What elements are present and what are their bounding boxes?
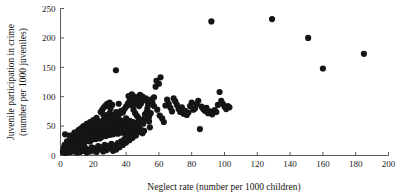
data-point [210,109,216,115]
data-point [113,67,119,73]
data-point [147,124,153,130]
data-point [269,16,275,22]
data-point [169,108,175,114]
x-tick-label: 40 [122,159,132,169]
y-axis-tick-labels: 050100150200250 [42,4,56,161]
data-point [151,94,157,100]
data-point [107,99,113,105]
data-point [131,94,137,100]
y-tick-label: 0 [51,151,56,161]
x-tick-label: 200 [382,159,396,169]
data-point [171,95,177,101]
data-point [195,98,201,104]
data-point [179,104,185,110]
data-point [157,74,163,80]
data-point [154,107,160,113]
data-point [215,102,221,108]
x-tick-label: 140 [283,159,297,169]
x-tick-label: 60 [154,159,164,169]
x-tick-label: 0 [58,159,63,169]
data-point [100,111,106,117]
data-point [128,132,134,138]
scatter-plot-svg: 020406080100120140160180200 050100150200… [0,0,403,196]
data-point [216,89,222,95]
data-point [161,119,167,125]
data-point [361,51,367,57]
data-point [164,97,170,103]
x-tick-label: 120 [251,159,265,169]
data-point [320,65,326,71]
x-axis-title: Neglect rate (number per 1000 children) [147,182,300,193]
y-tick-label: 150 [42,63,56,73]
data-point [137,92,143,98]
data-point [116,101,122,107]
x-tick-label: 20 [89,159,99,169]
scatter-plot-figure: 020406080100120140160180200 050100150200… [0,0,403,196]
x-tick-label: 100 [218,159,232,169]
data-point [192,105,198,111]
y-tick-label: 200 [42,33,56,43]
x-tick-label: 180 [349,159,363,169]
x-tick-label: 160 [316,159,330,169]
data-point [156,81,162,87]
data-point [141,128,147,134]
data-point [197,126,203,132]
y-tick-label: 100 [42,92,56,102]
data-point [305,35,311,41]
y-tick-label: 50 [47,121,57,131]
y-tick-label: 250 [42,4,56,14]
data-point [146,114,152,120]
x-tick-label: 80 [187,159,197,169]
y-axis-title-line2: (number per 1000 juveniles) [18,28,29,136]
data-point [226,104,232,110]
y-axis-title-line1: Juvenile participation in crime [6,24,16,140]
data-points-layer [60,16,367,156]
data-point [60,147,66,153]
x-axis-ticks [61,152,389,156]
plot-axes: 020406080100120140160180200 050100150200… [42,4,396,169]
data-point [208,18,214,24]
x-axis-tick-labels: 020406080100120140160180200 [58,159,396,169]
